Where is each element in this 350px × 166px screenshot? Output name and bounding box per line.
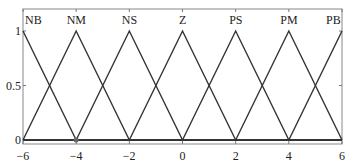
x-tick-label: −4 (70, 150, 83, 162)
series-ns (76, 31, 182, 140)
label-nm: NM (67, 14, 86, 26)
label-nb: NB (25, 14, 42, 26)
label-pb: PB (326, 14, 341, 26)
x-tick-label: 0 (180, 150, 186, 162)
plot-frame (23, 9, 342, 144)
x-tick-label: −2 (123, 150, 136, 162)
series-ps (183, 31, 289, 140)
x-tick-label: 2 (233, 150, 239, 162)
series-pm (236, 31, 342, 140)
marker (74, 138, 79, 143)
series-z (129, 31, 235, 140)
label-ns: NS (122, 14, 137, 26)
y-tick-label: 1 (15, 25, 21, 37)
x-tick-label: 6 (339, 150, 345, 162)
x-tick-label: −6 (17, 150, 30, 162)
y-tick-label: 0.5 (6, 80, 21, 92)
series-nm (23, 31, 129, 140)
label-ps: PS (229, 14, 242, 26)
label-pm: PM (280, 14, 297, 26)
y-tick-label: 0 (15, 134, 21, 146)
label-z: Z (179, 14, 186, 26)
x-tick-label: 4 (286, 150, 292, 162)
